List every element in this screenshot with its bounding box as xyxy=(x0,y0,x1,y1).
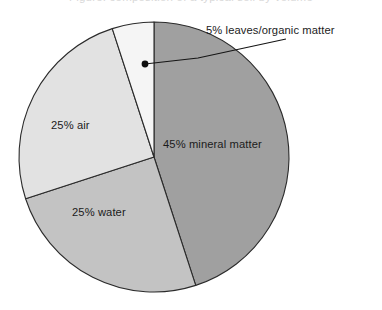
pie-label-air: 25% air xyxy=(51,119,90,131)
pie-label-water: 25% water xyxy=(72,206,126,218)
pie-chart-figure: Figure: composition of a typical soil by… xyxy=(0,0,382,310)
soil-composition-pie-chart: 45% mineral matter 25% water 25% air 5% … xyxy=(0,0,382,310)
pie-label-leaves-organic-matter: 5% leaves/organic matter xyxy=(206,24,335,36)
pie-label-mineral-matter: 45% mineral matter xyxy=(163,138,262,150)
callout-anchor-dot xyxy=(142,61,149,68)
